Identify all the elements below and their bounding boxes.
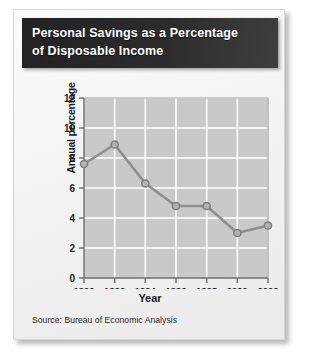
x-axis-title: Year — [22, 292, 278, 304]
svg-text:2000: 2000 — [227, 285, 248, 289]
svg-text:0: 0 — [69, 273, 75, 284]
svg-text:10: 10 — [64, 123, 76, 134]
chart-title-bar: Personal Savings as a Percentage of Disp… — [22, 18, 278, 68]
svg-text:1998: 1998 — [196, 285, 217, 289]
svg-text:6: 6 — [69, 183, 75, 194]
svg-text:12: 12 — [64, 93, 76, 104]
svg-text:1994: 1994 — [135, 285, 157, 289]
svg-text:4: 4 — [69, 213, 75, 224]
svg-text:1996: 1996 — [165, 285, 186, 289]
svg-text:8: 8 — [69, 153, 75, 164]
svg-text:1992: 1992 — [104, 285, 125, 289]
svg-text:1990: 1990 — [73, 285, 94, 289]
source-note: Source: Bureau of Economic Analysis — [32, 315, 177, 325]
line-chart-svg: 024681012 1990199219941996199820002002 — [22, 74, 278, 289]
page-title: Personal Savings as a Percentage of Disp… — [32, 24, 268, 60]
svg-text:2002: 2002 — [257, 285, 278, 289]
figure-card: Personal Savings as a Percentage of Disp… — [13, 9, 285, 340]
x-axis-tick-labels: 1990199219941996199820002002 — [73, 285, 278, 289]
chart-plot-area: Annual percentage 024681012 199019921994… — [22, 74, 278, 309]
svg-text:2: 2 — [69, 243, 75, 254]
y-axis-tick-labels: 024681012 — [64, 93, 76, 284]
